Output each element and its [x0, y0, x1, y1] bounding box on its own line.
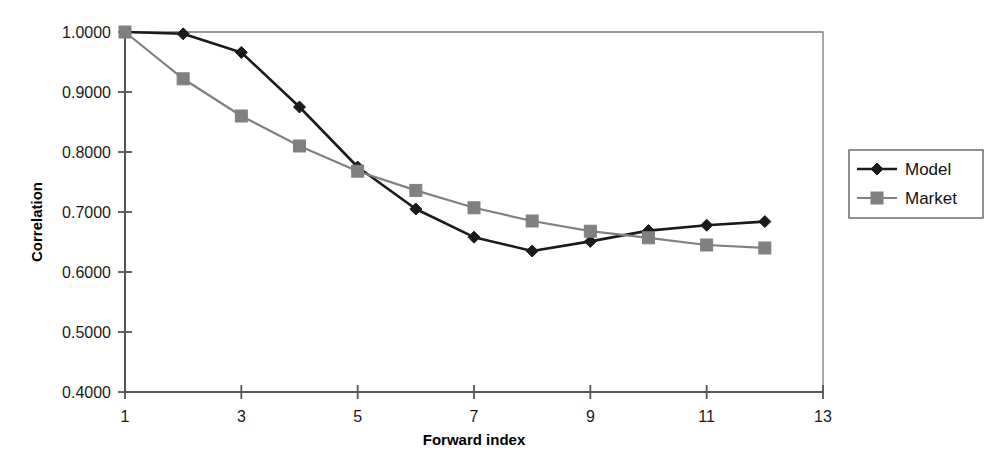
x-tick-label: 13 [814, 408, 832, 425]
x-axis-title: Forward index [423, 431, 526, 448]
chart-figure: 0.40000.50000.60000.70000.80000.90001.00… [0, 0, 1001, 457]
x-tick-label: 11 [698, 408, 715, 425]
marker-square [119, 26, 131, 38]
correlation-line-chart: 0.40000.50000.60000.70000.80000.90001.00… [0, 0, 1001, 457]
marker-square [701, 239, 713, 251]
x-tick-label: 3 [237, 408, 246, 425]
marker-square [871, 192, 883, 204]
marker-square [410, 184, 422, 196]
y-tick-label: 0.4000 [62, 384, 111, 401]
marker-square [177, 73, 189, 85]
marker-square [235, 110, 247, 122]
legend-label: Model [905, 160, 951, 179]
chart-background [0, 0, 1001, 457]
y-tick-label: 0.5000 [62, 324, 111, 341]
marker-square [294, 140, 306, 152]
y-axis-title: Correlation [28, 182, 45, 262]
marker-square [759, 242, 771, 254]
y-tick-label: 0.9000 [62, 84, 111, 101]
x-tick-label: 9 [586, 408, 595, 425]
marker-square [352, 165, 364, 177]
chart-legend: ModelMarket [849, 150, 983, 218]
y-tick-label: 0.6000 [62, 264, 111, 281]
legend-label: Market [905, 189, 957, 208]
y-tick-label: 1.0000 [62, 24, 111, 41]
x-tick-label: 7 [470, 408, 479, 425]
marker-square [526, 215, 538, 227]
y-tick-label: 0.7000 [62, 204, 111, 221]
marker-square [468, 202, 480, 214]
x-tick-label: 5 [353, 408, 362, 425]
x-tick-label: 1 [121, 408, 130, 425]
marker-square [584, 225, 596, 237]
marker-square [643, 232, 655, 244]
y-tick-label: 0.8000 [62, 144, 111, 161]
